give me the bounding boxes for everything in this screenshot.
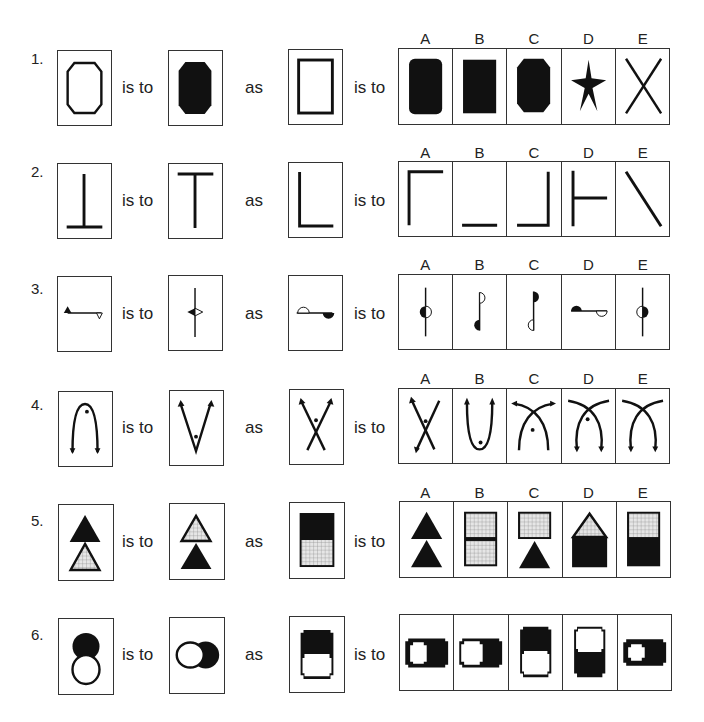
is-to-label: is to xyxy=(122,78,153,98)
is-to-label: is to xyxy=(122,645,153,665)
is-to-label: is to xyxy=(354,418,385,438)
option-a[interactable] xyxy=(399,275,453,349)
is-to-label: is to xyxy=(122,304,153,324)
stem-figure-1 xyxy=(58,618,114,695)
stem-figure-1 xyxy=(57,163,112,239)
stem-figure-3 xyxy=(288,275,343,351)
option-e[interactable] xyxy=(616,162,669,236)
option-d[interactable] xyxy=(562,162,616,236)
option-a[interactable] xyxy=(399,162,453,236)
option-b[interactable] xyxy=(453,389,507,463)
option-e[interactable] xyxy=(616,389,669,463)
option-c[interactable] xyxy=(509,615,563,690)
option-e[interactable] xyxy=(616,275,669,349)
question-number: 3. xyxy=(31,280,44,297)
option-a[interactable] xyxy=(400,615,454,690)
is-to-label: is to xyxy=(354,78,385,98)
question-number: 1. xyxy=(31,50,44,67)
stem-figure-3 xyxy=(288,162,343,238)
as-label: as xyxy=(245,532,263,552)
option-d[interactable] xyxy=(562,49,616,124)
as-label: as xyxy=(245,645,263,665)
stem-figure-3 xyxy=(289,502,345,579)
question-number: 6. xyxy=(31,626,44,643)
is-to-label: is to xyxy=(122,418,153,438)
option-c[interactable] xyxy=(507,49,561,124)
stem-figure-1 xyxy=(58,391,113,467)
is-to-label: is to xyxy=(354,532,385,552)
question-number: 2. xyxy=(31,163,44,180)
as-label: as xyxy=(245,78,263,98)
options-strip xyxy=(398,48,670,125)
option-b[interactable] xyxy=(454,615,508,690)
stem-figure-2 xyxy=(168,163,223,239)
option-a[interactable] xyxy=(399,49,453,124)
option-c[interactable] xyxy=(507,275,561,349)
option-d[interactable] xyxy=(562,389,616,463)
option-b[interactable] xyxy=(454,502,508,577)
option-d[interactable] xyxy=(562,275,616,349)
option-b[interactable] xyxy=(453,275,507,349)
as-label: as xyxy=(245,304,263,324)
option-letters: ABCDE xyxy=(398,30,670,47)
option-e[interactable] xyxy=(617,502,670,577)
options-strip xyxy=(399,501,671,578)
option-a[interactable] xyxy=(399,389,453,463)
stem-figure-1 xyxy=(57,50,112,126)
stem-figure-1 xyxy=(58,504,114,581)
options-strip xyxy=(398,161,670,237)
option-c[interactable] xyxy=(508,502,562,577)
is-to-label: is to xyxy=(122,532,153,552)
stem-figure-2 xyxy=(168,275,223,351)
option-e[interactable] xyxy=(618,615,671,690)
is-to-label: is to xyxy=(354,191,385,211)
option-letters: ABCDE xyxy=(398,144,670,161)
option-d[interactable] xyxy=(563,502,617,577)
options-strip xyxy=(398,388,670,464)
option-d[interactable] xyxy=(563,615,617,690)
option-c[interactable] xyxy=(507,389,561,463)
option-c[interactable] xyxy=(507,162,561,236)
is-to-label: is to xyxy=(354,304,385,324)
stem-figure-2 xyxy=(169,503,225,580)
option-e[interactable] xyxy=(616,49,669,124)
question-number: 4. xyxy=(31,396,44,413)
stem-figure-3 xyxy=(288,49,343,125)
option-letters: ABCDE xyxy=(398,256,670,273)
is-to-label: is to xyxy=(354,645,385,665)
option-letters: ABCDE xyxy=(398,370,670,387)
option-b[interactable] xyxy=(453,49,507,124)
as-label: as xyxy=(245,191,263,211)
as-label: as xyxy=(245,418,263,438)
question-number: 5. xyxy=(31,512,44,529)
options-strip xyxy=(398,274,670,350)
option-a[interactable] xyxy=(400,502,454,577)
is-to-label: is to xyxy=(122,191,153,211)
stem-figure-2 xyxy=(169,390,224,466)
stem-figure-2 xyxy=(169,617,225,694)
stem-figure-3 xyxy=(289,616,345,693)
stem-figure-1 xyxy=(57,276,112,352)
options-strip xyxy=(399,614,672,691)
stem-figure-2 xyxy=(168,50,223,126)
option-b[interactable] xyxy=(453,162,507,236)
stem-figure-3 xyxy=(289,389,344,465)
option-letters: ABCDE xyxy=(398,484,670,501)
